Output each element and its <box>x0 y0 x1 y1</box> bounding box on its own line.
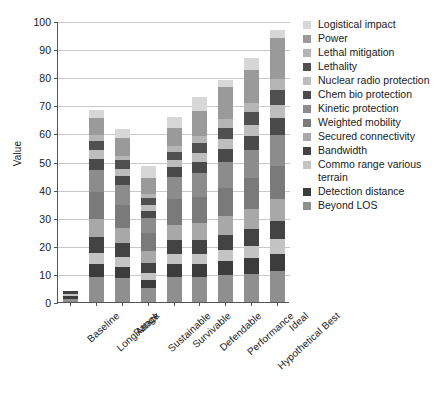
bar-segment <box>192 223 207 240</box>
bar-segment <box>141 273 156 280</box>
legend-swatch-icon <box>303 91 311 99</box>
y-tick-label: 40 <box>39 185 51 196</box>
bar-segment <box>244 58 259 71</box>
legend-swatch-icon <box>303 161 311 169</box>
x-tick-mark <box>148 302 149 306</box>
legend-item[interactable]: Lethal mitigation <box>303 46 442 59</box>
bar-segment <box>167 254 182 264</box>
bar-segment <box>115 243 130 257</box>
bar-segment <box>218 149 233 162</box>
legend-swatch-icon <box>303 21 311 29</box>
legend-swatch-icon <box>303 49 311 57</box>
legend-swatch-icon <box>303 77 311 85</box>
bar-segment <box>244 70 259 102</box>
bar-segment <box>270 221 285 239</box>
legend-swatch-icon <box>303 133 311 141</box>
gridline <box>58 50 290 51</box>
bar[interactable] <box>89 110 104 302</box>
y-tick-label: 100 <box>33 17 51 28</box>
legend-label: Chem bio protection <box>318 88 412 101</box>
bar-segment <box>115 205 130 227</box>
bar-segment <box>167 240 182 254</box>
bar[interactable] <box>192 97 207 302</box>
bar-segment <box>244 125 259 136</box>
y-axis-title: Value <box>12 124 23 184</box>
bar-segment <box>244 150 259 178</box>
bar-segment <box>141 288 156 302</box>
y-tick-label: 80 <box>39 73 51 84</box>
legend-item[interactable]: Power <box>303 32 442 45</box>
legend-item[interactable]: Detection distance <box>303 185 442 198</box>
bar-segment <box>270 199 285 220</box>
legend-item[interactable]: Weighted mobility <box>303 116 442 129</box>
bar-segment <box>115 138 130 156</box>
bar-segment <box>141 218 156 233</box>
bar-segment <box>192 97 207 111</box>
bar-segment <box>192 240 207 254</box>
y-tick-label: 60 <box>39 129 51 140</box>
bar-segment <box>115 257 130 267</box>
bar-segment <box>192 173 207 197</box>
bar-segment <box>141 166 156 179</box>
y-tick-label: 0 <box>45 298 51 309</box>
bar[interactable] <box>270 30 285 303</box>
legend-swatch-icon <box>303 147 311 155</box>
legend-item[interactable]: Chem bio protection <box>303 88 442 101</box>
bar-segment <box>115 267 130 278</box>
bar-segment <box>167 199 182 224</box>
legend-label: Lethality <box>318 60 357 73</box>
legend-item[interactable]: Bandwidth <box>303 144 442 157</box>
bar-segment <box>141 178 156 193</box>
y-tick-mark <box>54 275 58 276</box>
legend-item[interactable]: Beyond LOS <box>303 199 442 212</box>
bar-segment <box>218 250 233 261</box>
legend-item[interactable]: Kinetic protection <box>303 102 442 115</box>
bar[interactable] <box>218 80 233 302</box>
bar-segment <box>89 150 104 158</box>
legend-swatch-icon <box>303 63 311 71</box>
bar-segment <box>141 211 156 218</box>
bar-segment <box>115 278 130 302</box>
bar-segment <box>192 254 207 264</box>
y-tick-label: 70 <box>39 101 51 112</box>
bar-segment <box>115 129 130 137</box>
legend-item[interactable]: Nuclear radio protection <box>303 74 442 87</box>
y-tick-mark <box>54 22 58 23</box>
legend-item[interactable]: Commo range various terrain <box>303 158 442 184</box>
bar-segment <box>192 111 207 136</box>
y-tick-mark <box>54 78 58 79</box>
bar-segment <box>141 263 156 273</box>
x-tick-mark <box>122 302 123 306</box>
legend-swatch-icon <box>303 119 311 127</box>
bar[interactable] <box>244 58 259 302</box>
legend-item[interactable]: Secured connectivity <box>303 130 442 143</box>
bar-segment <box>167 117 182 128</box>
legend-label: Power <box>318 32 348 45</box>
y-tick-label: 90 <box>39 45 51 56</box>
bar[interactable] <box>115 129 130 302</box>
bar[interactable] <box>141 166 156 302</box>
legend-swatch-icon <box>303 105 311 113</box>
bar-segment <box>218 80 233 87</box>
legend-item[interactable]: Lethality <box>303 60 442 73</box>
bar[interactable] <box>63 291 78 302</box>
bar-segment <box>192 264 207 277</box>
y-tick-mark <box>54 247 58 248</box>
y-tick-mark <box>54 303 58 304</box>
legend-label: Bandwidth <box>318 144 367 157</box>
bar-segment <box>244 178 259 209</box>
bar-segment <box>218 119 233 127</box>
legend-item[interactable]: Logistical impact <box>303 18 442 31</box>
bar[interactable] <box>167 117 182 302</box>
legend-label: Weighted mobility <box>318 116 401 129</box>
y-tick-label: 10 <box>39 270 51 281</box>
legend-label: Secured connectivity <box>318 130 415 143</box>
legend-label: Commo range various terrain <box>318 158 440 184</box>
bar-segment <box>218 261 233 275</box>
bar-segment <box>192 197 207 224</box>
bar-segment <box>270 166 285 200</box>
y-tick-mark <box>54 134 58 135</box>
x-axis-label: Attack <box>134 310 162 337</box>
x-tick-mark <box>70 302 71 306</box>
bar-segment <box>270 271 285 302</box>
